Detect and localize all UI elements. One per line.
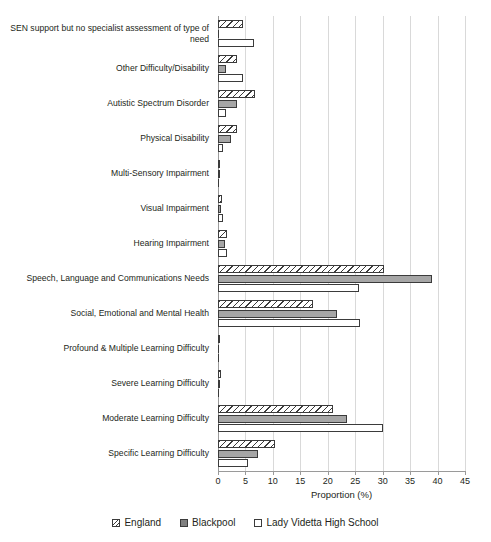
x-tick-label: 30 — [368, 476, 398, 486]
legend-swatch-icon — [180, 519, 188, 527]
category-label: Social, Emotional and Mental Health — [0, 296, 214, 331]
bar — [218, 310, 337, 318]
x-tick — [438, 471, 439, 475]
bar-group — [218, 401, 465, 436]
x-tick — [328, 471, 329, 475]
bar — [218, 20, 243, 28]
bar — [218, 195, 222, 203]
bar-group — [218, 226, 465, 261]
category-label: Severe Learning Difficulty — [0, 366, 214, 401]
plot-area — [218, 16, 465, 471]
bar — [218, 265, 384, 273]
x-axis-line — [218, 471, 465, 472]
category-label: Multi-Sensory Impairment — [0, 156, 214, 191]
category-label: Physical Disability — [0, 121, 214, 156]
x-tick-label: 40 — [423, 476, 453, 486]
bar — [218, 240, 225, 248]
x-tick — [383, 471, 384, 475]
x-tick-label: 15 — [285, 476, 315, 486]
bar — [218, 345, 219, 353]
chart-title-remnant — [230, 0, 440, 6]
category-label: Profound & Multiple Learning Difficulty — [0, 331, 214, 366]
x-tick-label: 20 — [313, 476, 343, 486]
category-axis-labels: SEN support but no specialist assessment… — [0, 16, 214, 471]
bar — [218, 39, 254, 47]
bar — [218, 459, 248, 467]
bar — [218, 405, 333, 413]
bar — [218, 160, 220, 168]
bar-group — [218, 436, 465, 471]
bar — [218, 354, 219, 362]
bar — [218, 109, 226, 117]
bar-group — [218, 156, 465, 191]
bar — [218, 30, 219, 38]
x-tick-label: 35 — [395, 476, 425, 486]
bar-group — [218, 191, 465, 226]
bar — [218, 389, 219, 397]
category-label: Moderate Learning Difficulty — [0, 401, 214, 436]
legend-item[interactable]: Lady Videtta High School — [254, 517, 378, 528]
bar — [218, 74, 243, 82]
x-tick — [410, 471, 411, 475]
x-axis-title: Proportion (%) — [218, 489, 465, 500]
bar — [218, 450, 258, 458]
bar — [218, 170, 220, 178]
bar — [218, 249, 227, 257]
legend-swatch-icon — [112, 519, 120, 527]
bar-group — [218, 296, 465, 331]
legend-label: England — [124, 517, 161, 528]
bar-group — [218, 366, 465, 401]
chart-legend: EnglandBlackpoolLady Videtta High School — [0, 517, 491, 528]
legend-label: Blackpool — [192, 517, 235, 528]
gridline-45 — [465, 16, 466, 471]
bar-group — [218, 331, 465, 366]
bar — [218, 179, 219, 187]
x-tick — [300, 471, 301, 475]
bar — [218, 230, 227, 238]
bar — [218, 55, 237, 63]
x-tick — [355, 471, 356, 475]
legend-swatch-icon — [254, 519, 262, 527]
category-label: Other Difficulty/Disability — [0, 51, 214, 86]
bar — [218, 65, 226, 73]
bar — [218, 284, 359, 292]
bar-group — [218, 121, 465, 156]
bar — [218, 214, 223, 222]
bar — [218, 440, 275, 448]
category-label: Specific Learning Difficulty — [0, 436, 214, 471]
x-tick — [273, 471, 274, 475]
bar-group — [218, 261, 465, 296]
bar — [218, 90, 255, 98]
bar — [218, 135, 231, 143]
bar-group — [218, 51, 465, 86]
bar — [218, 319, 360, 327]
legend-item[interactable]: England — [112, 517, 161, 528]
x-tick-label: 10 — [258, 476, 288, 486]
bar — [218, 380, 220, 388]
x-tick-label: 25 — [340, 476, 370, 486]
bar — [218, 205, 221, 213]
x-tick — [245, 471, 246, 475]
bar-chart: SEN support but no specialist assessment… — [0, 0, 491, 542]
category-label: SEN support but no specialist assessment… — [0, 16, 214, 51]
category-label: Autistic Spectrum Disorder — [0, 86, 214, 121]
bar — [218, 335, 220, 343]
category-label: Visual Impairment — [0, 191, 214, 226]
category-label: Hearing Impairment — [0, 226, 214, 261]
legend-label: Lady Videtta High School — [266, 517, 378, 528]
bar — [218, 370, 221, 378]
bar-group — [218, 16, 465, 51]
bar — [218, 275, 432, 283]
x-tick — [465, 471, 466, 475]
legend-item[interactable]: Blackpool — [180, 517, 235, 528]
x-tick-label: 5 — [230, 476, 260, 486]
bar — [218, 125, 237, 133]
bar — [218, 300, 313, 308]
bar — [218, 144, 223, 152]
bar — [218, 415, 347, 423]
x-tick — [218, 471, 219, 475]
bar — [218, 100, 237, 108]
bar — [218, 424, 383, 432]
category-label: Speech, Language and Communications Need… — [0, 261, 214, 296]
x-tick-label: 0 — [203, 476, 233, 486]
